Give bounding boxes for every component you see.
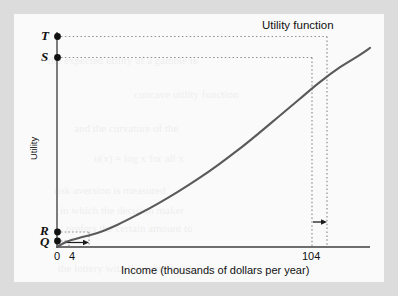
marker-point-q <box>54 238 61 245</box>
utility-function-annotation: Utility function <box>262 19 334 31</box>
y-axis-title: Utility <box>28 137 39 160</box>
marker-point-r <box>54 229 61 236</box>
arrow-low-income-head <box>83 240 89 245</box>
arrow-high-income-head <box>321 219 327 225</box>
marker-point-t <box>54 33 61 40</box>
x-tick-label-4: 4 <box>69 250 75 262</box>
marker-point-s <box>54 54 61 61</box>
utility-chart-svg <box>14 14 384 282</box>
utility-curve <box>57 48 370 247</box>
point-label-q: Q <box>40 234 49 250</box>
point-label-s: S <box>41 49 48 65</box>
x-axis-title: Income (thousands of dollars per year) <box>121 264 309 276</box>
figure-root: the expected utility of a gamble isconca… <box>0 0 398 296</box>
x-tick-label-0: 0 <box>54 250 60 262</box>
plot-panel: the expected utility of a gamble isconca… <box>14 14 384 282</box>
x-tick-label-104: 104 <box>302 250 320 262</box>
point-label-t: T <box>41 28 49 44</box>
